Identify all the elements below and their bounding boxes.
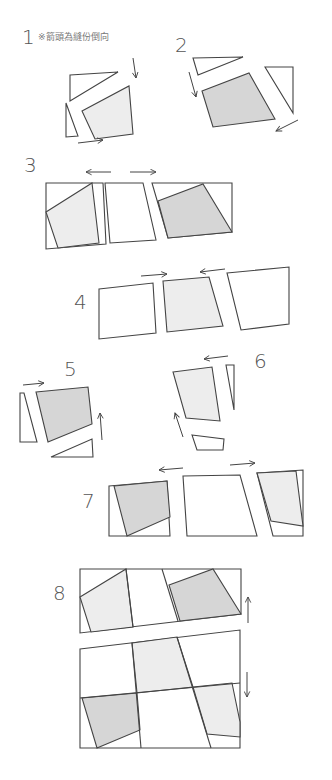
step-label-6: 6 xyxy=(254,349,267,373)
step-label-7: 7 xyxy=(82,489,95,513)
step-2-group xyxy=(189,57,298,131)
fabric-piece-white xyxy=(193,57,243,75)
fabric-piece-white xyxy=(192,435,224,450)
pieces-layer xyxy=(20,57,303,748)
step-label-8: 8 xyxy=(53,581,66,605)
fabric-piece-light xyxy=(173,367,220,421)
step-6-group xyxy=(173,356,234,450)
seam-direction-arrow-icon xyxy=(141,274,167,276)
fabric-piece-white xyxy=(20,393,37,442)
fabric-piece-dark xyxy=(202,73,275,127)
fabric-piece-white xyxy=(105,183,156,243)
fabric-piece-light xyxy=(82,86,133,139)
fabric-piece-light xyxy=(163,277,223,332)
seam-direction-arrow-icon xyxy=(230,463,255,465)
step-label-2: 2 xyxy=(175,33,188,57)
step-4-group xyxy=(99,267,289,339)
step-label-1: 1 xyxy=(22,25,35,49)
step-3-group xyxy=(46,172,232,249)
arrow-note: ※箭頭為縫份倒向 xyxy=(38,31,109,42)
fabric-piece-white xyxy=(99,283,156,339)
step-5-group xyxy=(20,383,102,457)
step-1-group xyxy=(66,58,136,143)
seam-direction-arrow-icon xyxy=(204,356,228,359)
fabric-piece-white xyxy=(66,103,78,137)
fabric-piece-white xyxy=(183,475,257,536)
fabric-piece-light xyxy=(257,471,303,526)
fabric-piece-white xyxy=(51,439,93,457)
step-label-5: 5 xyxy=(64,357,77,381)
seam-direction-arrow-icon xyxy=(276,120,298,131)
seam-direction-arrow-icon xyxy=(200,269,225,272)
seam-direction-arrow-icon xyxy=(189,72,196,97)
step-label-3: 3 xyxy=(24,153,37,177)
seam-direction-arrow-icon xyxy=(78,140,103,143)
fabric-piece-white xyxy=(226,365,234,410)
step-7-group xyxy=(109,463,303,536)
fabric-piece-white xyxy=(265,67,293,113)
fabric-piece-white xyxy=(227,267,289,330)
step-8-group xyxy=(80,569,248,748)
piecing-diagram: 1 ※箭頭為縫份倒向 2 3 4 5 6 7 8 xyxy=(0,0,332,780)
step-label-4: 4 xyxy=(74,290,87,314)
seam-direction-arrow-icon xyxy=(133,58,136,78)
seam-direction-arrow-icon xyxy=(175,413,183,437)
seam-direction-arrow-icon xyxy=(159,468,183,470)
seam-direction-arrow-icon xyxy=(23,383,44,385)
fabric-piece-dark xyxy=(36,387,92,442)
seam-direction-arrow-icon xyxy=(100,413,102,440)
